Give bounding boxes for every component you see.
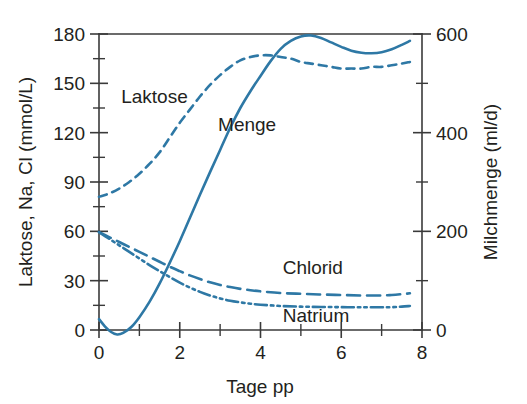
y-axis-right-title: Milchmenge (ml/d) (480, 104, 501, 260)
x-tick-label: 8 (417, 342, 428, 363)
x-tick-label: 6 (336, 342, 347, 363)
y2-tick-label: 200 (436, 221, 468, 242)
y-tick-label: 0 (74, 320, 85, 341)
y2-tick-label: 400 (436, 123, 468, 144)
y-tick-label: 180 (53, 24, 85, 45)
y2-tick-label: 600 (436, 24, 468, 45)
y-tick-label: 90 (64, 172, 85, 193)
series-label-chlorid: Chlorid (283, 257, 343, 278)
series-label-menge: Menge (218, 114, 276, 135)
chart-figure: 0306090120150180 0200400600 02468 Laktos… (0, 0, 527, 404)
x-tick-label: 0 (94, 342, 105, 363)
y-tick-label: 30 (64, 271, 85, 292)
x-tick-label: 4 (255, 342, 266, 363)
series-label-laktose: Laktose (121, 86, 188, 107)
y2-tick-label: 0 (436, 320, 447, 341)
y-axis-left-title: Laktose, Na, Cl (mmol/L) (15, 77, 36, 287)
y-tick-label: 120 (53, 123, 85, 144)
series-label-natrium: Natrium (283, 305, 350, 326)
y-tick-label: 60 (64, 221, 85, 242)
x-tick-label: 2 (174, 342, 185, 363)
line-chart: 0306090120150180 0200400600 02468 Laktos… (0, 0, 527, 404)
x-axis-title: Tage pp (226, 376, 294, 397)
y-tick-label: 150 (53, 73, 85, 94)
